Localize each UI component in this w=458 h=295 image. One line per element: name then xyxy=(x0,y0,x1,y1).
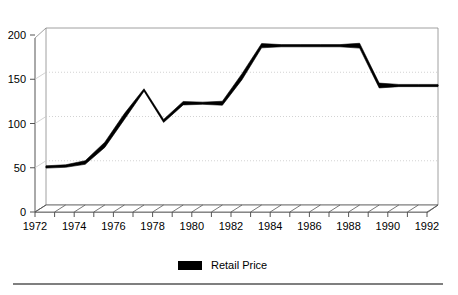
gridline-depth-150 xyxy=(35,72,46,79)
x-tick-label-1976: 1976 xyxy=(101,220,125,232)
depth-edge-top-left xyxy=(35,28,46,38)
x-tick-label-1978: 1978 xyxy=(140,220,164,232)
y-tick-label-150: 150 xyxy=(8,73,26,85)
x-tick-label-1984: 1984 xyxy=(258,220,282,232)
legend-label-retail-price: Retail Price xyxy=(211,259,267,271)
chart-page: 050100150200 197219741976197819801982198… xyxy=(0,0,458,295)
legend-swatch-retail-price xyxy=(178,261,202,270)
y-tick-label-100: 100 xyxy=(8,118,26,130)
x-tick-label-1986: 1986 xyxy=(297,220,321,232)
y-tick-label-0: 0 xyxy=(20,206,26,218)
x-tick-label-1972: 1972 xyxy=(23,220,47,232)
chart-legend: Retail Price xyxy=(178,259,267,271)
y-axis-ticks: 050100150200 xyxy=(8,29,35,218)
y-tick-label-200: 200 xyxy=(8,29,26,41)
gridline-depth-100 xyxy=(35,117,46,124)
x-tick-label-1992: 1992 xyxy=(415,220,439,232)
axis-floor-hatch xyxy=(35,205,438,212)
x-tick-label-1982: 1982 xyxy=(219,220,243,232)
x-tick-label-1988: 1988 xyxy=(336,220,360,232)
plot-frame xyxy=(35,28,438,212)
y-tick-label-50: 50 xyxy=(14,162,26,174)
retail-price-line-chart: 050100150200 197219741976197819801982198… xyxy=(0,0,458,295)
x-tick-label-1980: 1980 xyxy=(180,220,204,232)
x-tick-label-1990: 1990 xyxy=(376,220,400,232)
gridline-depth-50 xyxy=(35,161,46,168)
x-tick-label-1974: 1974 xyxy=(62,220,86,232)
x-axis-ticks: 1972197419761978198019821984198619881990… xyxy=(23,212,439,232)
